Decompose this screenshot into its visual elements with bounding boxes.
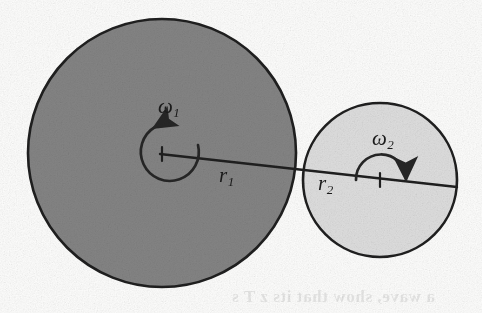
r1-subscript: 1	[228, 174, 235, 189]
omega2-subscript: 2	[387, 137, 394, 152]
page-bleedthrough-text: a wave, show that its z T s	[55, 287, 435, 307]
r2-label: r2	[318, 173, 333, 196]
r2-symbol: r	[318, 171, 326, 195]
omega2-label: ω2	[372, 128, 394, 151]
omega1-label: ω1	[158, 96, 180, 119]
r1-label: r1	[219, 165, 234, 188]
figure-canvas	[0, 0, 482, 313]
r2-subscript: 2	[327, 182, 334, 197]
omega1-subscript: 1	[173, 105, 180, 120]
r1-symbol: r	[219, 163, 227, 187]
omega1-symbol: ω	[158, 94, 173, 118]
rotating-disks-figure: ω1 ω2 r1 r2 a wave, show that its z T s	[0, 0, 482, 313]
omega2-symbol: ω	[372, 126, 387, 150]
